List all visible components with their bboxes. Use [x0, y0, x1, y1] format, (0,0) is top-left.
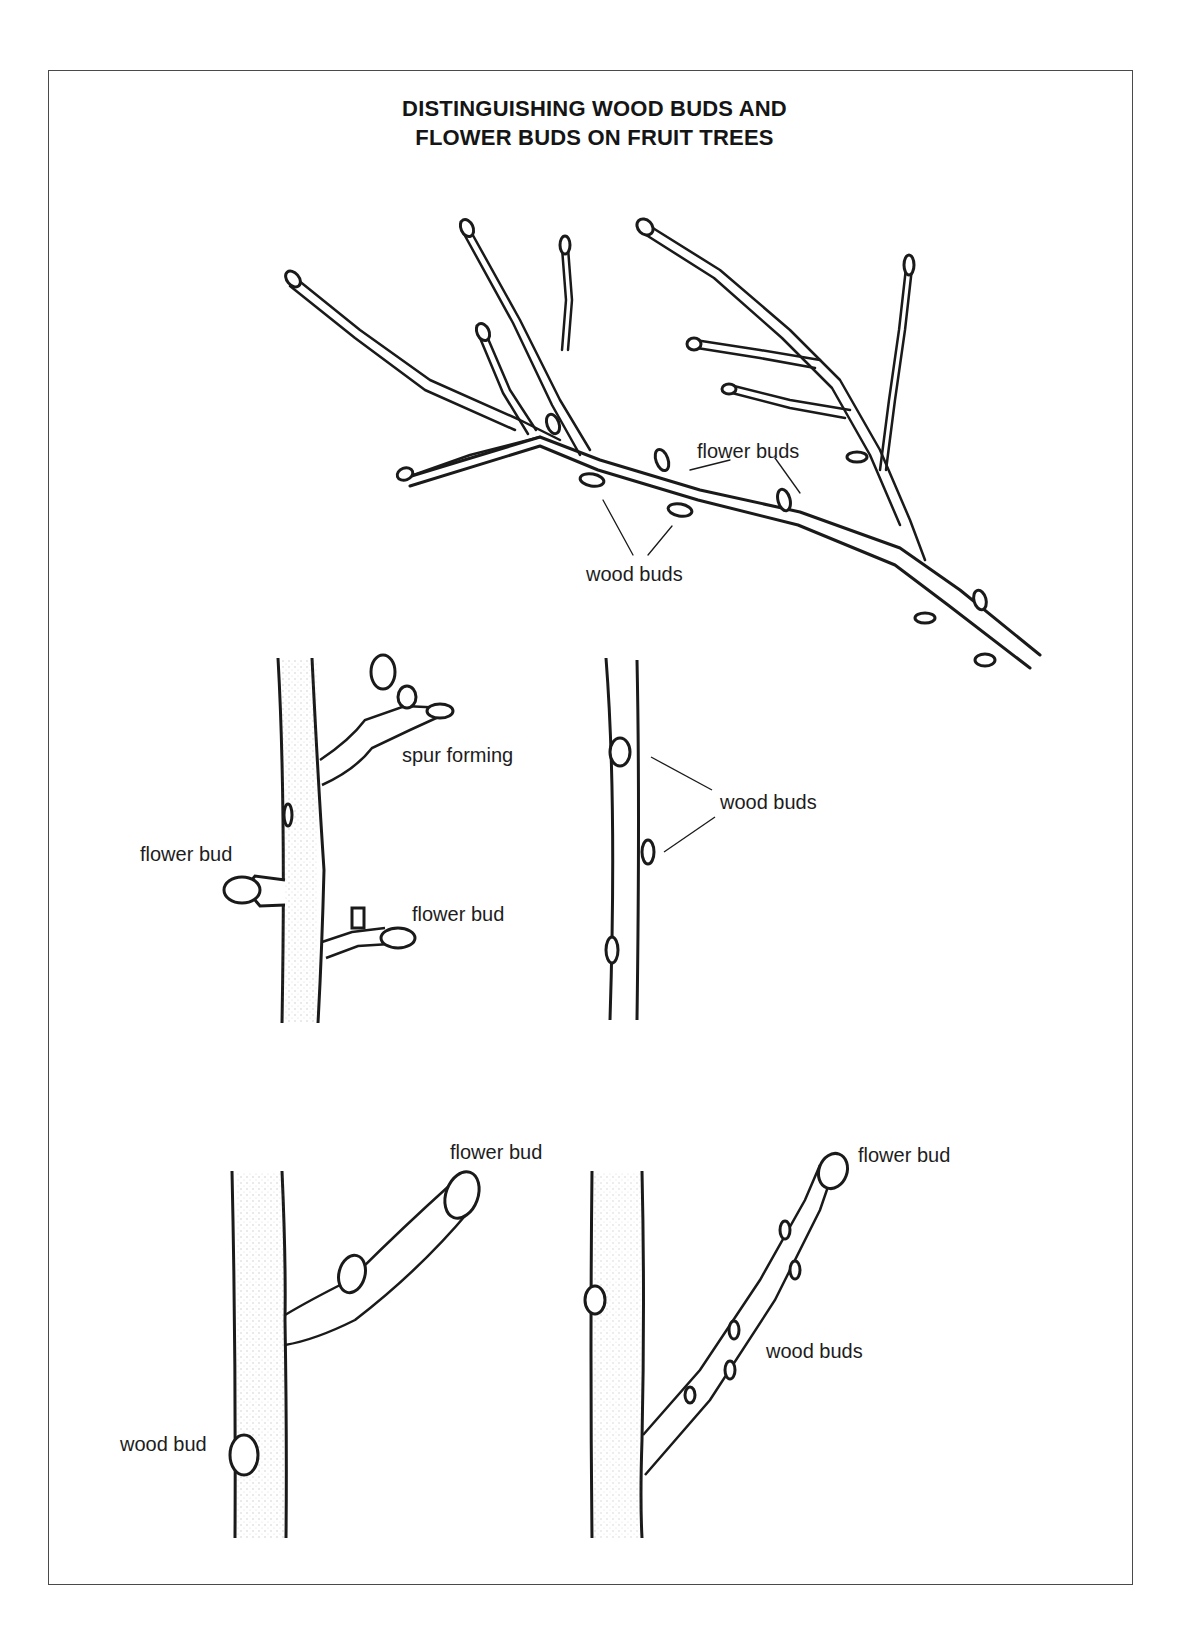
- slender-twig-illustration: [606, 658, 715, 1020]
- thick-shoot-illustration: [230, 1167, 485, 1538]
- illustrations: [0, 0, 1189, 1644]
- label-flower-bud-long: flower bud: [858, 1144, 950, 1166]
- label-flower-bud-left: flower bud: [140, 843, 232, 865]
- label-flower-buds-main: flower buds: [697, 440, 799, 462]
- label-flower-bud-right: flower bud: [412, 903, 504, 925]
- main-branch-illustration: [283, 216, 1040, 668]
- label-wood-buds-long: wood buds: [766, 1340, 863, 1362]
- label-wood-bud-thick: wood bud: [120, 1433, 207, 1455]
- label-flower-bud-thick: flower bud: [450, 1141, 542, 1163]
- spur-twig-illustration: [224, 655, 453, 1023]
- label-wood-buds-slender: wood buds: [720, 791, 817, 813]
- label-spur-forming: spur forming: [402, 744, 513, 766]
- label-wood-buds-main: wood buds: [586, 563, 683, 585]
